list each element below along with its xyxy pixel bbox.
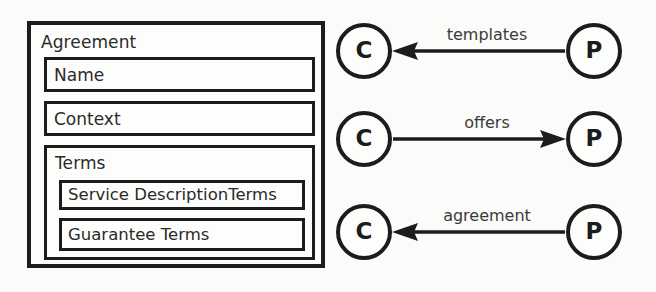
agreement-title: Agreement [41,34,136,51]
service-description-terms-label: Service DescriptionTerms [68,187,277,204]
node-label-c-row-3: C [356,220,373,243]
agreement-box: Agreement Name Context Terms Service Des… [27,21,325,268]
arrowhead-agreement [392,223,418,241]
context-field-box: Context [44,101,315,136]
diagram-canvas: Agreement Name Context Terms Service Des… [0,0,656,292]
node-label-c-row-2: C [356,127,373,150]
node-label-p-row-1: P [586,39,603,62]
edge-label-agreement: agreement [443,208,531,224]
name-field-label: Name [54,66,104,83]
node-consumer-row-1[interactable]: C [336,23,392,79]
terms-box: Terms Service DescriptionTerms Guarantee… [44,145,315,260]
node-consumer-row-2[interactable]: C [336,111,392,167]
node-consumer-row-3[interactable]: C [336,204,392,260]
terms-title: Terms [55,155,106,172]
arrowhead-offers [540,130,566,148]
arrowhead-templates [392,42,418,60]
edge-label-offers: offers [464,115,510,131]
node-label-c-row-1: C [356,39,373,62]
service-description-terms-box: Service DescriptionTerms [59,180,305,210]
context-field-label: Context [54,110,121,127]
name-field-box: Name [44,57,315,92]
guarantee-terms-box: Guarantee Terms [59,218,305,251]
guarantee-terms-label: Guarantee Terms [68,226,209,243]
node-provider-row-2[interactable]: P [566,111,622,167]
node-provider-row-3[interactable]: P [566,204,622,260]
node-label-p-row-3: P [586,220,603,243]
edge-label-templates: templates [447,27,528,43]
node-label-p-row-2: P [586,127,603,150]
node-provider-row-1[interactable]: P [566,23,622,79]
